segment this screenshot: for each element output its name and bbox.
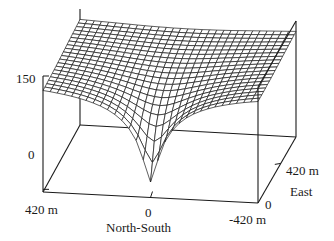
ns-tick-420: 420 m [25,203,58,216]
ns-tick-neg420: -420 m [229,213,266,226]
ns-axis-title: North-South [106,221,171,234]
east-axis-title: East [290,185,312,198]
ns-tick-0: 0 [145,206,152,219]
east-tick-420: 420 m [286,164,319,177]
z-tick-0: 0 [28,148,35,161]
z-tick-150: 150 [16,72,36,85]
east-tick-0: 0 [265,198,272,211]
